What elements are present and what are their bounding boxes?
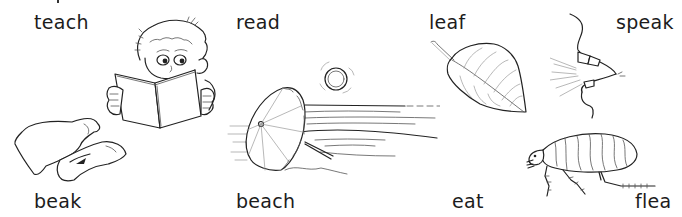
word-eat: eat [452,190,484,212]
beak-icon [10,110,130,185]
word-beak: beak [34,190,82,212]
speaking-mouth-icon [550,12,630,120]
flea-icon [525,128,665,198]
word-leaf: leaf [429,11,466,33]
cropped-mark [56,0,62,4]
leaf-icon [430,40,530,122]
word-read: read [236,11,280,33]
beach-umbrella-sun-icon [225,60,440,180]
word-teach: teach [34,11,89,33]
word-beach: beach [236,190,295,212]
